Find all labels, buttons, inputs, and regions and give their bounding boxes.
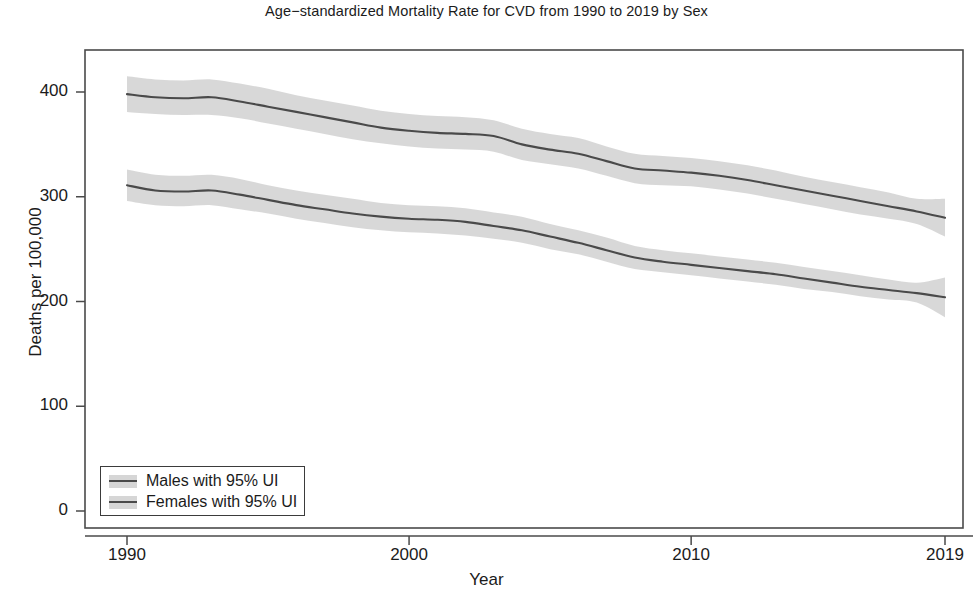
legend-label-males: Males with 95% UI	[146, 472, 279, 490]
legend-item-males: Males with 95% UI	[109, 470, 279, 492]
legend-line-females-icon	[109, 501, 137, 503]
chart-figure: Age−standardized Mortality Rate for CVD …	[0, 0, 973, 596]
legend-swatch-females-icon	[109, 496, 137, 509]
chart-legend: Males with 95% UI Females with 95% UI	[100, 466, 305, 516]
legend-swatch-males-icon	[109, 475, 137, 488]
legend-line-males-icon	[109, 480, 137, 482]
legend-item-females: Females with 95% UI	[109, 491, 297, 513]
legend-label-females: Females with 95% UI	[146, 493, 297, 511]
